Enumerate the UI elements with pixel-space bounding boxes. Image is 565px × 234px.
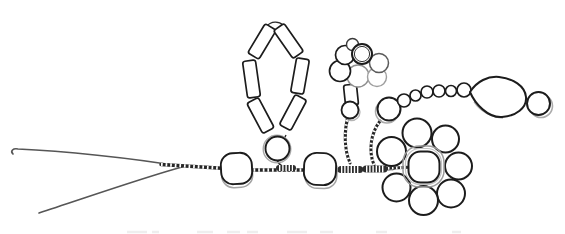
chain-bead-3: [421, 86, 433, 98]
bud-stem-core: [345, 116, 350, 163]
twisted-wire-left-bands: [161, 165, 226, 169]
wire-bead-2: [303, 152, 336, 185]
rosette-petal-top: [403, 119, 432, 148]
chain-bead-6: [457, 83, 471, 97]
caption-remnant-mark: [452, 231, 461, 233]
caption-remnant-mark: [127, 231, 147, 233]
caption-remnant-mark: [152, 231, 159, 233]
rosette-petal-bottom-right: [437, 180, 465, 208]
rosette-petal-left: [377, 137, 406, 166]
teardrop-bead: [470, 77, 526, 117]
beadwork-illustration-figure: [0, 0, 565, 234]
bud-cluster-bead-top: [352, 44, 372, 64]
bugle-bead-top-left: [248, 24, 277, 60]
caption-remnant-mark: [376, 231, 387, 233]
rosette-center-bead: [409, 152, 440, 183]
rosette-petal-bottom-left: [383, 174, 411, 202]
caption-remnant-mark: [320, 231, 333, 233]
caption-remnant-mark: [227, 231, 240, 233]
beadwork-svg: [0, 0, 565, 234]
rosette-petal-right: [445, 153, 472, 180]
chain-bead-2: [410, 90, 421, 101]
bugle-bead-bottom-right: [279, 94, 306, 130]
chain-bead-1: [398, 94, 411, 107]
bud-round-bead: [342, 102, 359, 119]
diamond-base-bead: [266, 137, 290, 161]
bugle-bead-top-right: [273, 23, 303, 58]
caption-remnant-mark: [197, 231, 213, 233]
bugle-bead-bottom-left: [247, 97, 274, 133]
end-bead: [527, 92, 550, 115]
chain-bead-5: [446, 86, 457, 97]
left-lower-wire: [39, 167, 182, 213]
caption-remnant-mark: [247, 231, 258, 233]
bugle-bead-right: [291, 58, 310, 95]
rosette-petal-bottom: [409, 186, 438, 215]
chain-bead-4: [433, 85, 445, 97]
bugle-bead-left: [242, 60, 260, 98]
caption-remnant-mark: [287, 231, 307, 233]
left-upper-wire: [12, 149, 178, 166]
wire-bead-1: [220, 152, 253, 185]
